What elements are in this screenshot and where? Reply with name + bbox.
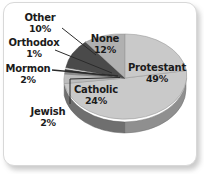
pie-chart-image: Other 10% Orthodox 1% Mormon 2% Jewish 2… [0,0,204,174]
slice-label-orthodox-name: Orthodox [8,37,59,48]
slice-label-protestant: Protestant 49% [124,63,190,84]
slice-label-jewish-name: Jewish [30,106,65,117]
slice-label-protestant-percent: 49% [124,74,190,85]
slice-label-other-name: Other [24,12,55,23]
slice-label-catholic-name: Catholic [74,84,118,95]
slice-label-protestant-name: Protestant [128,62,186,73]
slice-label-jewish-percent: 2% [25,118,71,129]
slice-label-other-percent: 10% [17,24,63,35]
slice-label-catholic: Catholic 24% [68,85,124,106]
slice-label-orthodox-percent: 1% [5,49,63,60]
slice-label-other: Other 10% [17,13,63,34]
chart-plot-area: Other 10% Orthodox 1% Mormon 2% Jewish 2… [0,0,204,174]
slice-label-catholic-percent: 24% [68,96,124,107]
slice-label-mormon-percent: 2% [2,75,54,86]
slice-label-none-percent: 12% [86,45,124,56]
slice-label-jewish: Jewish 2% [25,107,71,128]
slice-label-mormon: Mormon 2% [2,64,54,85]
slice-label-mormon-name: Mormon [6,63,51,74]
slice-label-none: None 12% [86,34,124,55]
slice-label-orthodox: Orthodox 1% [5,38,63,59]
slice-label-none-name: None [91,33,119,44]
